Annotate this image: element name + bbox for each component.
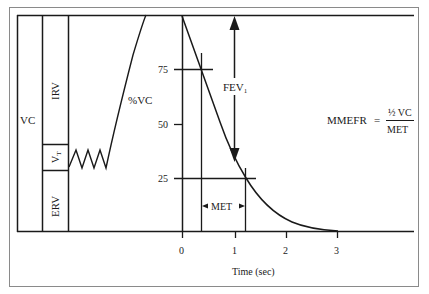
vc-label: VC [20, 114, 35, 126]
met-arrow-left-icon [202, 204, 208, 209]
tidal-breathing-trace [69, 15, 146, 168]
outer-frame [10, 8, 419, 287]
erv-label: ERV [49, 196, 61, 217]
arrow-down-icon [230, 148, 240, 162]
forced-expiration-curve [182, 16, 338, 231]
fev1-label: FEV1 [223, 81, 248, 95]
x-tick-label-3: 3 [334, 245, 339, 256]
svg-text:VT: VT [50, 151, 63, 163]
x-tick-label-0: 0 [179, 245, 184, 256]
x-axis-label: Time (sec) [232, 266, 275, 278]
x-tick-label-2: 2 [283, 245, 288, 256]
arrow-up-icon [230, 16, 240, 30]
irv-label: IRV [49, 82, 61, 100]
pct-vc-label: %VC [128, 94, 152, 106]
spirometry-diagram: VC IRV VT ERV %VC 75 50 25 FEV1 MET 0 1 … [0, 0, 429, 294]
x-tick-label-1: 1 [232, 245, 237, 256]
met-arrow-right-icon [239, 204, 245, 209]
vt-label: VT [50, 151, 63, 163]
formula-equals: = [374, 114, 380, 126]
formula-numerator: ½ VC [388, 107, 412, 118]
met-label: MET [211, 201, 232, 212]
y-tick-label-25: 25 [158, 173, 168, 184]
formula-denominator: MET [387, 124, 408, 135]
y-tick-label-50: 50 [158, 119, 168, 130]
svg-text:FEV1: FEV1 [223, 81, 248, 95]
y-tick-label-75: 75 [158, 64, 168, 75]
formula-lhs: MMEFR [327, 114, 367, 126]
